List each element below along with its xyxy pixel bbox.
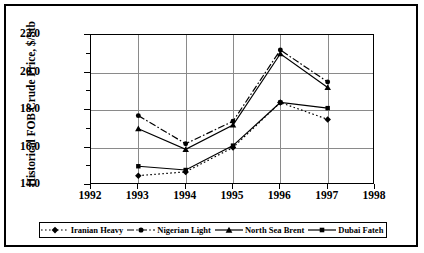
chart-frame: Historical FOB Crude Price, $/Stb 14.016… bbox=[4, 4, 418, 247]
legend-item-label: Iranian Heavy bbox=[70, 225, 127, 235]
series-dubai-fateh bbox=[136, 100, 330, 172]
square-marker bbox=[307, 224, 337, 236]
y-axis-tick-label: 14.0 bbox=[0, 178, 40, 189]
x-axis-tick-label: 1993 bbox=[114, 189, 160, 201]
x-axis-tick-label: 1997 bbox=[304, 189, 350, 201]
series-north-sea-brent bbox=[135, 51, 331, 152]
x-axis-tick-label: 1992 bbox=[67, 189, 113, 201]
triangle-marker bbox=[214, 224, 244, 236]
y-axis-tick-label: 16.0 bbox=[0, 141, 40, 152]
diamond-marker bbox=[40, 224, 70, 236]
legend-item-north-sea-brent[interactable]: North Sea Brent bbox=[214, 224, 307, 236]
y-axis-tick-label: 22.0 bbox=[0, 28, 40, 39]
legend-item-nigerian-light[interactable]: Nigerian Light bbox=[126, 224, 214, 236]
legend-item-iranian-heavy[interactable]: Iranian Heavy bbox=[40, 224, 127, 236]
y-axis-tick-label: 20.0 bbox=[0, 66, 40, 77]
series-lines bbox=[91, 35, 375, 185]
plot-area bbox=[90, 34, 374, 184]
plot-area-wrapper: Historical FOB Crude Price, $/Stb 14.016… bbox=[6, 6, 416, 245]
chart-legend: Iranian HeavyNigerian LightNorth Sea Bre… bbox=[39, 222, 387, 238]
legend-item-label: North Sea Brent bbox=[244, 225, 307, 235]
x-axis-tick-label: 1996 bbox=[256, 189, 302, 201]
legend-item-dubai-fateh[interactable]: Dubai Fateh bbox=[307, 224, 386, 236]
x-axis-tick-label: 1998 bbox=[351, 189, 397, 201]
x-axis-tick-label: 1994 bbox=[162, 189, 208, 201]
series-iranian-heavy bbox=[135, 99, 331, 179]
legend-item-label: Nigerian Light bbox=[156, 225, 214, 235]
legend-item-label: Dubai Fateh bbox=[337, 225, 386, 235]
y-axis-tick-label: 18.0 bbox=[0, 103, 40, 114]
series-nigerian-light bbox=[136, 48, 330, 147]
x-axis-tick-label: 1995 bbox=[209, 189, 255, 201]
circle-marker bbox=[126, 224, 156, 236]
